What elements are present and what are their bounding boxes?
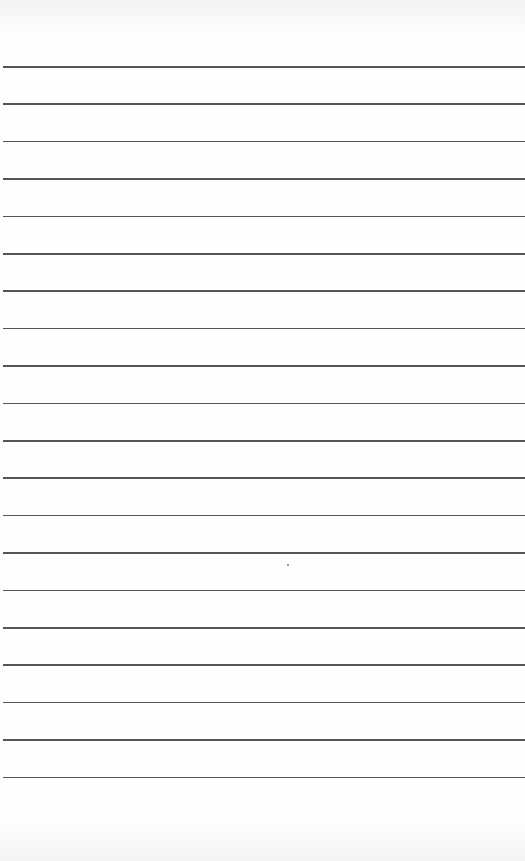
lined-paper-page: [0, 0, 525, 861]
paper-speck: [287, 564, 289, 566]
ruled-line: [3, 253, 525, 255]
ruled-line: [3, 702, 525, 704]
ruled-line: [3, 627, 525, 629]
ruled-line: [3, 290, 525, 292]
ruled-line: [3, 365, 525, 367]
ruled-line: [3, 328, 525, 330]
ruled-line: [3, 552, 525, 554]
ruled-line: [3, 216, 525, 218]
ruled-line: [3, 777, 525, 779]
ruled-line: [3, 141, 525, 143]
ruled-line: [3, 103, 525, 105]
ruled-line: [3, 477, 525, 479]
ruled-line: [3, 66, 525, 68]
ruled-line: [3, 403, 525, 405]
ruled-line: [3, 739, 525, 741]
ruled-line: [3, 590, 525, 592]
ruled-line: [3, 178, 525, 180]
ruled-line: [3, 440, 525, 442]
ruled-line: [3, 515, 525, 517]
ruled-line: [3, 664, 525, 666]
